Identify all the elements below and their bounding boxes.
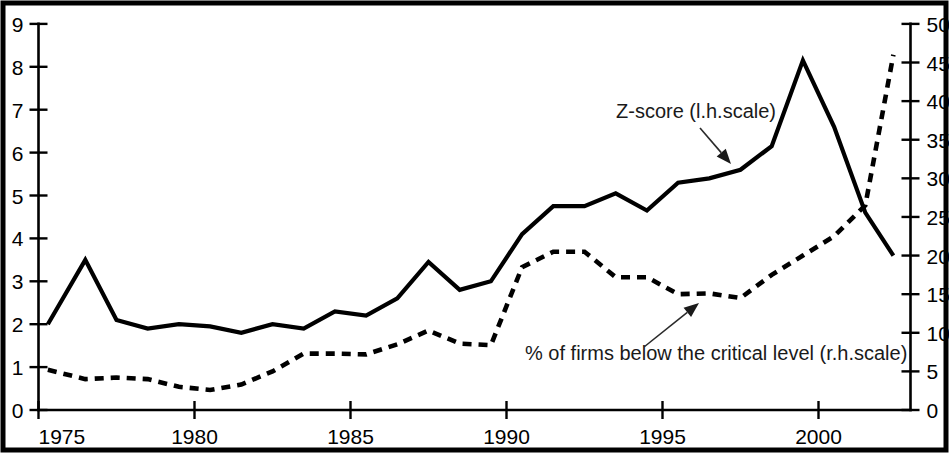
bottom-axis: 197519801985199019952000: [39, 401, 911, 448]
x-axis-tick-label: 2000: [795, 425, 842, 448]
left-axis-tick-label: 9: [12, 13, 24, 36]
right-axis-tick-label: 0: [927, 399, 939, 422]
figure-frame: [3, 3, 946, 450]
right-axis-tick-label: 15: [927, 283, 949, 306]
left-axis-tick-label: 2: [12, 313, 24, 336]
annotation-arrowhead-pct-firms: [684, 303, 699, 317]
right-axis-tick-label: 45: [927, 52, 949, 75]
right-axis-tick-label: 35: [927, 129, 949, 152]
annotation-group: Z-score (l.h.scale)% of firms below the …: [525, 100, 907, 364]
right-axis-tick-label: 30: [927, 167, 949, 190]
right-axis-tick-label: 25: [927, 206, 949, 229]
x-axis-tick-label: 1995: [639, 425, 686, 448]
right-axis-tick-label: 5: [927, 360, 939, 383]
x-axis-tick-label: 1980: [171, 425, 218, 448]
x-axis-tick-label: 1990: [483, 425, 530, 448]
annotation-leader-zscore: [700, 128, 721, 153]
right-axis-tick-label: 10: [927, 322, 949, 345]
left-axis-tick-label: 0: [12, 399, 24, 422]
left-axis: 0123456789: [12, 13, 48, 422]
left-axis-tick-label: 3: [12, 270, 24, 293]
left-axis-tick-label: 7: [12, 99, 24, 122]
chart-figure: 0123456789 05101520253035404550 19751980…: [0, 0, 949, 453]
right-axis-tick-label: 50: [927, 13, 949, 36]
x-axis-tick-label: 1975: [39, 425, 86, 448]
left-axis-tick-label: 1: [12, 356, 24, 379]
annotation-label-pct-firms: % of firms below the critical level (r.h…: [525, 342, 907, 364]
right-axis-tick-label: 20: [927, 245, 949, 268]
chart-canvas: 0123456789 05101520253035404550 19751980…: [0, 0, 949, 453]
left-axis-tick-label: 4: [12, 227, 24, 250]
right-axis-tick-label: 40: [927, 90, 949, 113]
left-axis-tick-label: 6: [12, 142, 24, 165]
x-axis-tick-label: 1985: [327, 425, 374, 448]
left-axis-tick-label: 5: [12, 185, 24, 208]
right-axis: 05101520253035404550: [902, 13, 949, 422]
annotation-label-zscore: Z-score (l.h.scale): [616, 100, 776, 122]
left-axis-tick-label: 8: [12, 56, 24, 79]
